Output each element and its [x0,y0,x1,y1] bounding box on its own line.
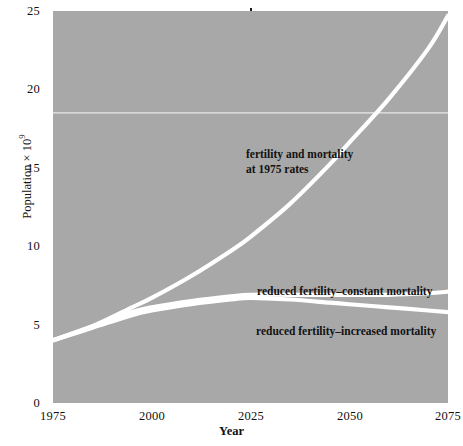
annotation-line-2: at 1975 rates [246,162,353,177]
annotation-reduced-fertility-increased-mortality: reduced fertility–increased mortality [256,324,436,339]
x-tick-label-2075: 2075 [418,409,463,424]
y-tick-label-10: 10 [10,239,40,254]
x-axis-title: Year [0,424,463,439]
y-tick-label-20: 20 [10,82,40,97]
annotation-fertility-mortality-1975: fertility and mortality at 1975 rates [246,147,353,176]
plot-area: fertility and mortality at 1975 rates re… [53,11,448,403]
annotation-reduced-fertility-constant-mortality: reduced fertility–constant mortality [257,284,432,299]
y-axis-title-exponent: 9 [17,134,27,138]
plot-canvas [53,11,448,403]
y-tick-label-5: 5 [10,318,40,333]
population-projection-chart: Population × 109 25 20 15 10 5 0 1975 20… [0,0,463,446]
y-axis-title: Population × 109 [17,107,34,247]
y-axis-title-base: Population × 10 [20,139,34,219]
x-tick-label-1975: 1975 [23,409,83,424]
plot-background [53,11,448,403]
annotation-line-1: fertility and mortality [246,147,353,162]
x-tick-label-2000: 2000 [122,409,182,424]
x-tick-label-2025: 2025 [221,409,281,424]
y-tick-label-15: 15 [10,161,40,176]
x-tick-label-2050: 2050 [320,409,380,424]
y-tick-label-25: 25 [10,4,40,19]
